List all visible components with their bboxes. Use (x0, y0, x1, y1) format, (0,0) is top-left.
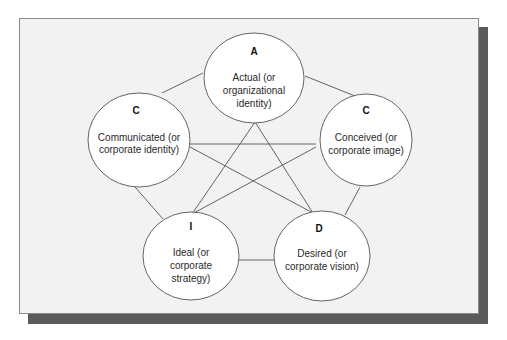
svg-text:D: D (315, 223, 322, 234)
edge-A-C2 (305, 76, 360, 98)
svg-text:Ideal (or: Ideal (or (173, 247, 210, 258)
node-C-conceived: C Conceived (or corporate image) (320, 94, 412, 186)
edge-A-C1 (162, 73, 203, 93)
svg-text:C: C (362, 105, 369, 116)
svg-text:organizational: organizational (223, 85, 285, 96)
svg-text:corporate vision): corporate vision) (285, 261, 359, 272)
edge-A-D (255, 122, 313, 213)
node-A: A Actual (or organizational identity) (204, 33, 304, 123)
svg-text:A: A (250, 46, 257, 57)
svg-text:Desired (or: Desired (or (297, 248, 347, 259)
svg-text:I: I (190, 221, 193, 232)
node-C-communicated: C Communicated (or corporate identity) (88, 93, 190, 187)
edge-C2-I (192, 147, 316, 214)
svg-text:strategy): strategy) (172, 273, 211, 284)
svg-text:identity): identity) (236, 98, 271, 109)
svg-text:corporate image): corporate image) (328, 145, 404, 156)
svg-text:corporate: corporate (170, 260, 213, 271)
svg-text:Communicated (or: Communicated (or (98, 132, 181, 143)
svg-text:C: C (132, 105, 139, 116)
edge-C2-D (345, 187, 360, 215)
svg-text:Conceived (or: Conceived (or (335, 132, 398, 143)
node-I: I Ideal (or corporate strategy) (143, 212, 239, 300)
svg-text:corporate identity): corporate identity) (99, 144, 179, 155)
edge-A-I (192, 122, 255, 214)
edge-C1-I (135, 187, 163, 219)
acid-diagram: A Actual (or organizational identity) C … (0, 0, 507, 340)
svg-text:Actual (or: Actual (or (233, 72, 276, 83)
node-D: D Desired (or corporate vision) (274, 211, 370, 301)
edge-C1-D (190, 147, 313, 213)
